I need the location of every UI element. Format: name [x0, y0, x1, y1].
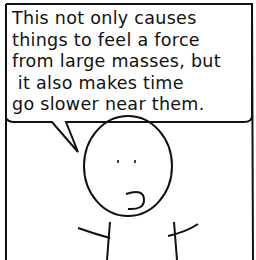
- speech-line: go slower near them.: [12, 94, 252, 116]
- speech-line: it also makes time: [12, 73, 252, 95]
- speech-line: things to feel a force: [12, 30, 252, 52]
- body-left: [107, 222, 110, 260]
- speech-line: from large masses, but: [12, 51, 252, 73]
- body-right: [174, 222, 177, 260]
- arm-right: [168, 224, 198, 236]
- speech-line: This not only causes: [12, 8, 252, 30]
- speech-text: This not only causes things to feel a fo…: [12, 8, 252, 116]
- stick-figure-head: [84, 116, 172, 216]
- mouth: [126, 192, 144, 209]
- arm-left: [78, 228, 110, 238]
